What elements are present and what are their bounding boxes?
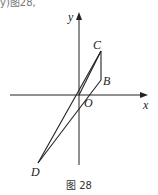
segment-OC [79, 51, 101, 95]
segment-DB [38, 80, 101, 163]
point-label-C: C [93, 38, 102, 52]
y-axis-arrow-icon [76, 12, 82, 20]
figure-caption: 图 28 [66, 180, 92, 191]
y-axis-label: y [67, 10, 74, 24]
point-label-D: D [30, 165, 40, 179]
coordinate-diagram: y)图28, x y C B O D 图 28 [0, 0, 158, 195]
x-axis-label: x [142, 98, 149, 112]
point-label-O: O [84, 96, 93, 110]
header-fragment: y)图28, [0, 0, 36, 8]
point-label-B: B [103, 74, 111, 88]
